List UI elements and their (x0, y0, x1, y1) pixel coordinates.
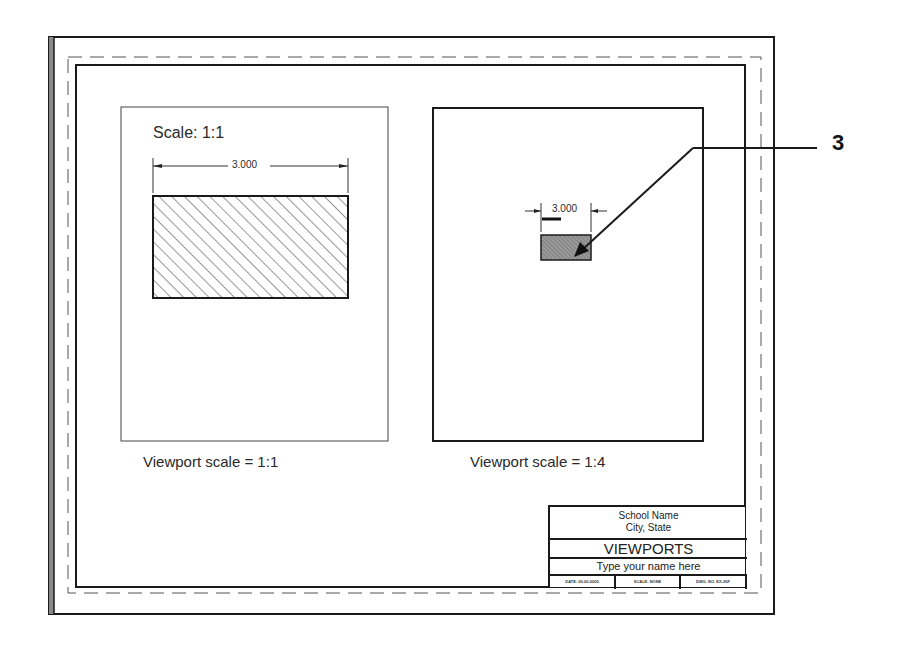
school-name: School Name (550, 510, 747, 522)
drawing-title: VIEWPORTS (550, 540, 747, 557)
student-name[interactable]: Type your name here (550, 559, 747, 574)
left-scale-label: Scale: 1:1 (153, 124, 224, 142)
title-block: School Name City, State VIEWPORTS Type y… (548, 505, 745, 587)
right-dimension-value: 3.000 (552, 203, 577, 214)
left-viewport-caption: Viewport scale = 1:1 (143, 453, 278, 470)
title-block-name-row[interactable]: Type your name here (550, 559, 747, 576)
title-block-school-row: School Name City, State (550, 507, 747, 540)
callout-number: 3 (832, 130, 844, 156)
date-cell: DATE: 00-00-0000 (550, 576, 616, 589)
city-state: City, State (550, 522, 747, 534)
drawing-sheet (0, 0, 900, 646)
hatched-rectangle-large (153, 196, 348, 298)
right-viewport-caption: Viewport scale = 1:4 (470, 453, 605, 470)
title-block-title-row: VIEWPORTS (550, 540, 747, 559)
left-dimension-value: 3.000 (230, 159, 259, 170)
scale-cell: SCALE: NONE (616, 576, 681, 589)
dwg-no-cell: DWG. NO. EX-26F (681, 576, 747, 589)
right-viewport[interactable] (433, 108, 703, 441)
title-block-footer-row: DATE: 00-00-0000 SCALE: NONE DWG. NO. EX… (550, 576, 747, 589)
